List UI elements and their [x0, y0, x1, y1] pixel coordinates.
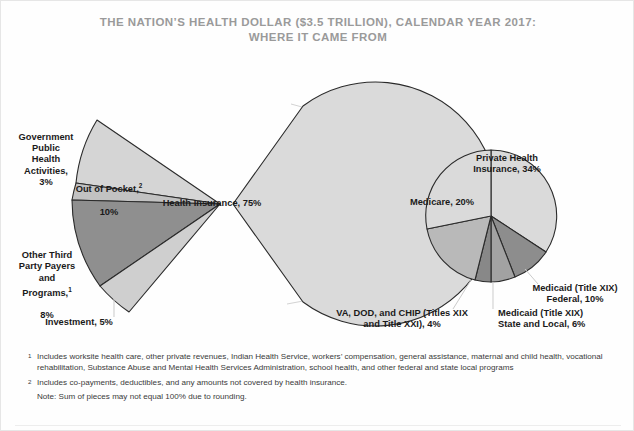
leader-medicaid-federal [525, 269, 538, 284]
label-va-dod-chip: VA, DOD, and CHIP (Titles XIX and Title … [314, 308, 490, 330]
label-health-insurance: Health Insurance, 75% [142, 198, 282, 209]
label-out-of-pocket-percent: 10% [100, 207, 119, 217]
footnote-2-mark: 2 [28, 376, 31, 387]
footnote-2-text: Includes co-payments, deductibles, and a… [37, 378, 347, 387]
label-other-third-party-text: Other Third Party Payers and Programs, [19, 250, 75, 298]
label-other-third-party: Other Third Party Payers and Programs,1 … [7, 239, 87, 322]
label-out-of-pocket-footnote-mark: 2 [139, 182, 143, 189]
label-medicaid-federal: Medicaid (Title XIX) Federal, 10% [521, 283, 629, 305]
footnote-2: 2 Includes co-payments, deductibles, and… [28, 377, 616, 388]
label-private-health-insurance: Private Health Insurance, 34% [453, 153, 561, 175]
label-medicare: Medicare, 20% [400, 197, 484, 208]
chart-canvas: THE NATION’S HEALTH DOLLAR ($3.5 TRILLIO… [0, 0, 634, 431]
label-out-of-pocket-text: Out of Pocket, [76, 184, 139, 194]
label-government-public-health: Government Public Health Activities, 3% [9, 132, 83, 188]
label-other-third-party-footnote-mark: 1 [68, 286, 72, 293]
label-medicaid-state-local: Medicaid (Title XIX) State and Local, 6% [498, 308, 614, 330]
label-investment: Investment, 5% [23, 317, 135, 328]
footnote-1-mark: 1 [28, 350, 31, 361]
footnote-1: 1 Includes worksite health care, other p… [28, 351, 616, 374]
footnote-1-text: Includes worksite health care, other pri… [37, 352, 603, 372]
footnote-rounding-note: Note: Sum of pieces may not equal 100% d… [28, 391, 616, 402]
footnotes: 1 Includes worksite health care, other p… [28, 351, 616, 402]
bottom-divider [15, 425, 621, 426]
